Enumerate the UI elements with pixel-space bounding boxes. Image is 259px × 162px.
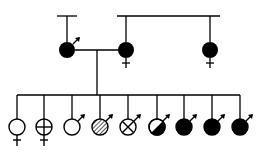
child-9-male-solid xyxy=(232,114,253,135)
father-symbol xyxy=(59,37,80,58)
child-6-male-half-filled xyxy=(149,114,170,135)
child-3-male-empty xyxy=(64,114,85,135)
child-drop-lines xyxy=(17,95,240,119)
pedigree-diagram xyxy=(0,0,259,162)
child-1-female-empty xyxy=(9,119,25,146)
child-7-male-solid xyxy=(176,114,197,135)
child-4-male-hatched xyxy=(92,114,113,135)
child-2-female-cross xyxy=(36,119,52,146)
mother-symbol xyxy=(118,42,134,68)
child-8-male-solid xyxy=(204,114,225,135)
child-5-male-x xyxy=(120,114,141,135)
aunt-symbol xyxy=(202,42,218,68)
